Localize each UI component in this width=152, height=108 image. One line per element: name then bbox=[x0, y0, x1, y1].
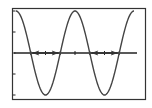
cosine-graph bbox=[0, 0, 152, 108]
plot-frame bbox=[13, 9, 146, 100]
